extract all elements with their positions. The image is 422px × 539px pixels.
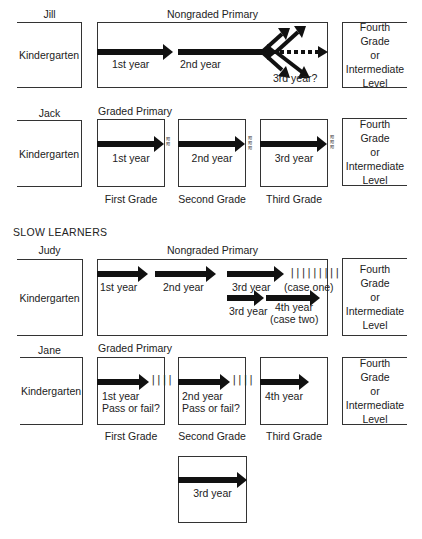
arrow-icon [155, 271, 207, 277]
arrow-icon [260, 141, 318, 147]
program-label-jack: Graded Primary [98, 105, 172, 117]
retention-barrier-icon: |||| [150, 373, 173, 386]
arrow-icon [97, 49, 164, 55]
fourth-grade-box-jane: Fourth Grade or Intermediate Level [342, 357, 407, 425]
case-label: (case one) [284, 281, 334, 293]
case-label: (case two) [270, 313, 318, 325]
fourth-grade-label: Fourth Grade or Intermediate Level [343, 356, 407, 426]
kindergarten-label: Kindergarten [17, 49, 81, 61]
fourth-grade-box-jack: Fourth Grade or Intermediate Level [342, 118, 407, 186]
arrow-icon [227, 271, 275, 277]
year-label: 3rd year [232, 281, 271, 293]
year-label: 3rd year [178, 487, 247, 499]
arrow-icon [178, 141, 236, 147]
arrow-icon [97, 141, 155, 147]
year-label: 2nd year [163, 281, 204, 293]
year-label: 1st year [112, 58, 149, 70]
retention-barrier-icon: |||| [231, 373, 254, 386]
grade-label: Second Grade [176, 193, 248, 205]
section-title-slow-learners: SLOW LEARNERS [13, 226, 107, 238]
program-label-jill: Nongraded Primary [97, 8, 328, 20]
fourth-grade-label: Fourth Grade or Intermediate Level [343, 20, 407, 90]
year-label: 1st year [102, 390, 139, 402]
fourth-grade-label: Fourth Grade or Intermediate Level [343, 262, 407, 332]
retention-barrier-icon: ||||||||| [289, 266, 340, 279]
year-label: 2nd year [182, 390, 223, 402]
arrow-icon [97, 271, 139, 277]
student-name-judy: Judy [17, 244, 82, 256]
year-label: 2nd year [178, 152, 246, 164]
kindergarten-label: Kindergarten [17, 148, 81, 160]
arrow-icon [97, 379, 140, 385]
year-label: 4th year [270, 301, 318, 313]
kindergarten-box-jack: Kindergarten [17, 120, 82, 187]
arrow-icon [178, 49, 268, 55]
fourth-grade-box-jill: Fourth Grade or Intermediate Level [342, 22, 407, 88]
arrow-icon [260, 379, 300, 385]
pass-fail-label: Pass or fail? [182, 402, 240, 414]
kindergarten-box-jane: Kindergarten [20, 357, 83, 425]
kindergarten-box-judy: Kindergarten [17, 259, 83, 336]
kindergarten-label: Kindergarten [17, 292, 82, 304]
program-label-judy: Nongraded Primary [97, 244, 328, 256]
grade-label: Third Grade [260, 193, 328, 205]
grade-label: Second Grade [176, 430, 248, 442]
year-label: 4th year [265, 390, 303, 402]
year-label: 3rd year [260, 152, 328, 164]
student-name-jill: Jill [17, 8, 82, 20]
year-label: 3rd year? [273, 72, 317, 84]
year-label: 1st year [97, 152, 165, 164]
year-label: 3rd year [229, 305, 268, 317]
kindergarten-box-jill: Kindergarten [17, 22, 82, 88]
grade-label: First Grade [97, 430, 165, 442]
retention-barrier-icon: ≋≋≋ [248, 136, 252, 151]
arrow-icon [178, 379, 221, 385]
year-label: 1st year [100, 281, 137, 293]
pass-fail-label: Pass or fail? [102, 402, 160, 414]
arrow-icon [178, 477, 238, 483]
grade-label: First Grade [97, 193, 165, 205]
grade-label: Third Grade [260, 430, 328, 442]
arrow-icon [227, 295, 255, 301]
fourth-grade-box-judy: Fourth Grade or Intermediate Level [342, 258, 407, 336]
student-name-jane: Jane [17, 344, 82, 356]
year-label: 2nd year [180, 58, 221, 70]
student-name-jack: Jack [17, 107, 82, 119]
program-label-jane: Graded Primary [98, 342, 172, 354]
fourth-grade-label: Fourth Grade or Intermediate Level [343, 117, 407, 187]
retention-barrier-icon: ≋≋ [166, 137, 170, 147]
kindergarten-label: Kindergarten [20, 385, 82, 397]
retention-barrier-icon: ≋≋≋ [330, 135, 334, 150]
